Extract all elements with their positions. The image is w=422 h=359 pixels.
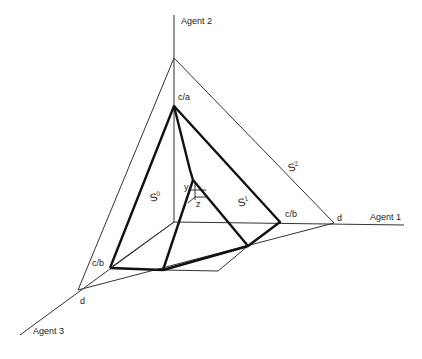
agent2-label: Agent 2 xyxy=(181,16,212,26)
inner-ridge-right xyxy=(193,180,248,246)
floor-line-bottom xyxy=(163,270,218,271)
cross-diag xyxy=(188,197,195,203)
left-outer-point-label: d xyxy=(80,296,85,306)
agent1-label: Agent 1 xyxy=(370,212,401,222)
outer-simplex-s2 xyxy=(78,58,334,290)
left-inner-point-label: c/b xyxy=(92,258,104,268)
z-point-label: z xyxy=(196,199,201,209)
s0-label: S0 xyxy=(148,189,162,204)
right-outer-point-label: d xyxy=(337,213,342,223)
inner-ridge-left xyxy=(163,180,193,270)
agent1-axis xyxy=(174,222,404,225)
y-point-label: y xyxy=(184,182,189,192)
top-point-label: c/a xyxy=(178,92,190,102)
s1-label: S1 xyxy=(236,194,250,209)
three-agent-simplex-diagram: Agent 2 Agent 1 Agent 3 c/a c/b c/b d d … xyxy=(0,0,422,359)
s2-label: S2 xyxy=(286,159,300,174)
agent3-label: Agent 3 xyxy=(33,326,64,336)
right-inner-point-label: c/b xyxy=(285,209,297,219)
